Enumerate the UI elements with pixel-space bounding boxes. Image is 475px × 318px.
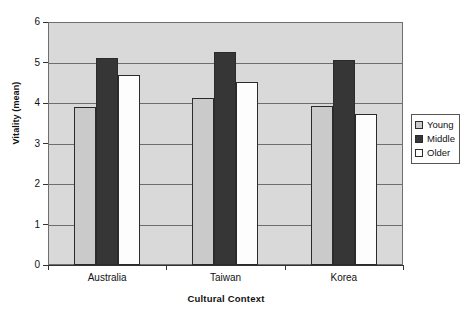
- x-tick-label-taiwan: Taiwan: [171, 272, 281, 284]
- y-axis-title: Vitality (mean): [11, 53, 21, 173]
- y-tick-label: 0: [4, 260, 40, 270]
- x-tick-mark: [48, 265, 49, 270]
- y-tick-label: 1: [4, 220, 40, 230]
- bar-chart: Vitality (mean) 0123456 AustraliaTaiwanK…: [0, 0, 475, 318]
- x-tick-mark: [403, 265, 404, 270]
- bar-taiwan-older: [236, 82, 258, 265]
- x-tick-label-korea: Korea: [289, 272, 399, 284]
- y-tick-label-wrap: 6: [0, 17, 40, 27]
- bar-australia-older: [118, 75, 140, 265]
- bar-group-australia: [48, 22, 166, 265]
- legend-item-young[interactable]: Young: [415, 118, 455, 132]
- y-tick-label-wrap: 0: [0, 260, 40, 270]
- y-tick-label: 3: [4, 139, 40, 149]
- y-tick-label: 4: [4, 98, 40, 108]
- bar-korea-older: [355, 114, 377, 265]
- legend-item-middle[interactable]: Middle: [415, 132, 455, 146]
- y-tick-label: 6: [4, 17, 40, 27]
- y-tick-label-wrap: 1: [0, 220, 40, 230]
- x-axis-line: [48, 265, 404, 266]
- bar-australia-middle: [96, 58, 118, 265]
- y-tick-label-wrap: 5: [0, 58, 40, 68]
- bar-korea-middle: [333, 60, 355, 265]
- bar-group-taiwan: [166, 22, 284, 265]
- bar-taiwan-middle: [214, 52, 236, 265]
- y-tick-label-wrap: 3: [0, 139, 40, 149]
- x-axis-title: Cultural Context: [48, 293, 404, 304]
- bar-korea-young: [311, 106, 333, 265]
- bar-group-korea: [285, 22, 403, 265]
- legend-swatch-icon: [415, 121, 423, 129]
- y-tick-label-wrap: 2: [0, 179, 40, 189]
- x-tick-label-australia: Australia: [52, 272, 162, 284]
- bars-layer: [48, 22, 403, 265]
- y-tick-label: 5: [4, 58, 40, 68]
- legend-label: Middle: [427, 134, 455, 144]
- legend-label: Older: [427, 148, 450, 158]
- legend-label: Young: [427, 120, 454, 130]
- x-tick-mark: [285, 265, 286, 270]
- x-tick-mark: [166, 265, 167, 270]
- bar-taiwan-young: [192, 98, 214, 265]
- legend-swatch-icon: [415, 149, 423, 157]
- legend-item-older[interactable]: Older: [415, 146, 455, 160]
- legend-swatch-icon: [415, 135, 423, 143]
- y-tick-label-wrap: 4: [0, 98, 40, 108]
- y-tick-label: 2: [4, 179, 40, 189]
- bar-australia-young: [74, 107, 96, 265]
- legend: YoungMiddleOlder: [411, 114, 460, 164]
